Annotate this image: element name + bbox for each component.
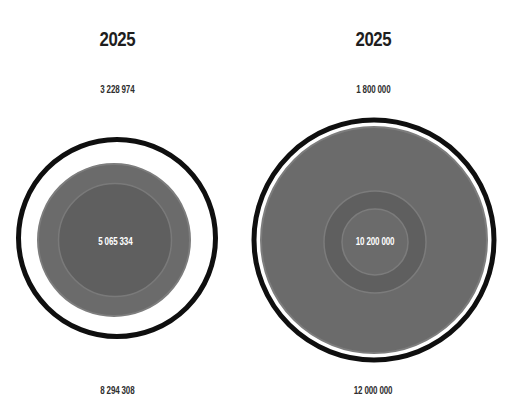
left-bottom-value-text: 8 294 308 (100, 385, 134, 396)
right-bottom-value-text: 12 000 000 (354, 385, 392, 396)
right-top-value-text: 1 800 000 (356, 84, 390, 95)
right-center-value-text: 10 200 000 (356, 236, 394, 247)
right-center-value-label: 10 200 000 (285, 236, 465, 247)
right-chart-title-text: 2025 (355, 27, 391, 51)
left-center-value-text: 5 065 334 (98, 236, 132, 247)
left-bottom-value-label: 8 294 308 (27, 385, 207, 396)
left-top-value-text: 3 228 974 (100, 84, 134, 95)
left-chart-title-text: 2025 (99, 27, 135, 51)
proportional-circles-figure: 2025 3 228 974 5 065 334 8 294 308 2025 … (0, 0, 511, 415)
circles-canvas (0, 0, 511, 415)
right-bottom-value-label: 12 000 000 (283, 385, 463, 396)
left-chart-title: 2025 (27, 27, 207, 51)
left-center-value-label: 5 065 334 (25, 236, 205, 247)
left-top-value-label: 3 228 974 (27, 84, 207, 95)
right-chart-title: 2025 (283, 27, 463, 51)
right-top-value-label: 1 800 000 (283, 84, 463, 95)
